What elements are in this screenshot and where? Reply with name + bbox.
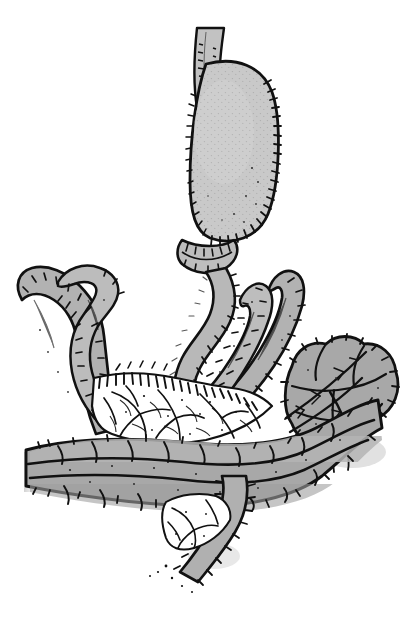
anatomy-drawing <box>0 0 404 618</box>
illustration-canvas: Upper gastrointestinal tract anatomy: st… <box>0 0 404 618</box>
